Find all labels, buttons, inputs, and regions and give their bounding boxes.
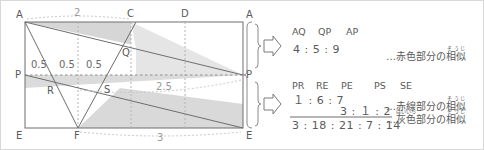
note-ruby-3b: 相似そうじ: [446, 114, 466, 125]
ratio-total-block2: 3 : 18 : 21 : 7 : 14: [292, 120, 401, 131]
note-mid-3: 部分の: [416, 114, 446, 125]
ratio-header-ap: AP: [346, 27, 372, 37]
ratio-header-re: RE: [316, 81, 341, 91]
ratio-header-ps: PS: [374, 81, 400, 91]
note-kanji-1: 相似: [446, 51, 466, 62]
ratio-header-pr: PR: [292, 81, 316, 91]
note-kanji-3b: 相似: [446, 114, 466, 125]
note-kanji-3a: 灰色: [396, 114, 416, 125]
note-red-area-similar: …赤色部分の相似そうじ: [386, 45, 466, 62]
ratio-row-1-block2: １ : 6 : 7: [293, 95, 344, 106]
ratio-header-se: SE: [400, 81, 420, 91]
note-prefix-1: …: [386, 51, 396, 62]
note-prefix-3: …: [386, 114, 396, 125]
ratio-values-block1: 4 : 5 : 9: [293, 44, 340, 55]
note-head-1: 赤色部分の: [396, 51, 446, 62]
ratio-header-aq: AQ: [292, 27, 318, 37]
right-arrow-icon-top: [264, 36, 281, 56]
note-furigana-1: そうじ: [446, 45, 466, 51]
ratio-headers-block2: PRREPEPSSE: [292, 81, 420, 91]
ratio-header-qp: QP: [318, 27, 346, 37]
brace-inner-bottom: [255, 82, 261, 126]
brace-outer: [244, 22, 253, 128]
note-furigana-3b: そうじ: [446, 108, 466, 114]
ratio-headers-block1: AQQPAP: [292, 27, 372, 37]
ratio-row-2-block2: 3 : １ : 2: [340, 106, 391, 117]
brace-and-arrow-layer: [0, 0, 484, 150]
right-arrow-icon-bottom: [264, 94, 281, 114]
ratio-header-pe: PE: [341, 81, 374, 91]
note-ruby-1: 相似そうじ: [446, 51, 466, 62]
brace-inner-top: [255, 24, 261, 68]
note-furigana-2: そうじ: [446, 95, 466, 101]
note-ruby-3a: 灰色はいいろ: [396, 114, 416, 125]
note-furigana-3a: はいいろ: [396, 108, 416, 114]
figure-page: A A C D P P E E F Q R S 2 2.5 3 0.5 0.5 …: [0, 0, 484, 150]
note-gray-area-similar: …灰色はいいろ部分の相似そうじ: [386, 108, 466, 125]
